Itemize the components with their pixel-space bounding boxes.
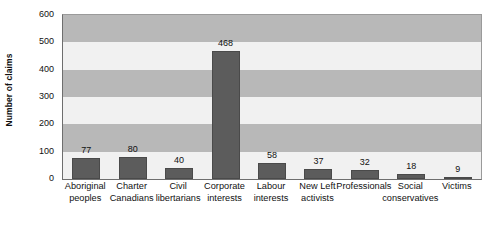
bar-value-label: 18	[391, 161, 431, 171]
plot-area: 778040468583732189	[62, 14, 482, 180]
y-tick-label: 100	[39, 146, 54, 156]
y-tick-label: 200	[39, 118, 54, 128]
x-axis-label-line1: Civil	[169, 181, 186, 191]
bar	[351, 170, 379, 179]
y-tick-label: 600	[39, 9, 54, 19]
x-axis-label-line2: activists	[280, 193, 354, 205]
bar-value-label: 40	[159, 155, 199, 165]
bar	[397, 174, 425, 179]
x-axis-label-line2: conservatives	[373, 193, 447, 205]
bar	[212, 51, 240, 179]
bar-value-label: 32	[345, 157, 385, 167]
bar-value-label: 77	[66, 145, 106, 155]
y-tick-label: 300	[39, 91, 54, 101]
bar-value-label: 9	[438, 164, 478, 174]
y-tick-label: 400	[39, 64, 54, 74]
bar-value-label: 37	[298, 156, 338, 166]
bar	[119, 157, 147, 179]
x-axis-category-labels: AboriginalpeoplesCharterCanadiansCivilli…	[62, 181, 482, 221]
bar	[444, 177, 472, 179]
x-axis-label: Victims	[420, 181, 494, 193]
y-axis-title: Number of claims	[0, 0, 18, 180]
bar-chart: Number of claims 6005004003002001000 778…	[0, 0, 504, 226]
bar	[304, 169, 332, 179]
bar	[72, 158, 100, 179]
bar-value-label: 468	[206, 38, 246, 48]
bars-layer: 778040468583732189	[63, 15, 481, 179]
bar-value-label: 58	[252, 150, 292, 160]
bar-value-label: 80	[113, 144, 153, 154]
y-tick-label: 500	[39, 36, 54, 46]
bar	[258, 163, 286, 179]
x-axis-label-line1: Victims	[442, 181, 471, 191]
y-axis-tick-labels: 6005004003002001000	[20, 14, 58, 178]
bar	[165, 168, 193, 179]
y-axis-title-label: Number of claims	[4, 54, 14, 127]
